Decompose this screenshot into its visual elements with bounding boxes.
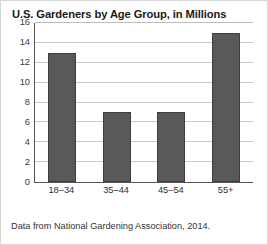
- y-tick-label: 0: [25, 178, 30, 187]
- source-note: Data from National Gardening Association…: [11, 220, 210, 232]
- y-tick-label: 6: [25, 118, 30, 127]
- x-tick-label: 45–54: [144, 184, 199, 196]
- y-tick-label: 8: [25, 98, 30, 107]
- bar-slot: [35, 23, 90, 182]
- x-tick-label: 35–44: [89, 184, 144, 196]
- bar: [157, 112, 185, 182]
- y-tick-label: 10: [20, 78, 30, 87]
- chart-figure: U.S. Gardeners by Age Group, in Millions…: [0, 0, 268, 245]
- bar-slot: [199, 23, 254, 182]
- x-tick-label: 55+: [198, 184, 253, 196]
- bar-slot: [144, 23, 199, 182]
- y-axis-tick-labels: 0246810121416: [8, 23, 30, 183]
- plot-wrapper: 0246810121416 18–3435–4445–5455+: [8, 23, 260, 195]
- bar: [212, 33, 240, 182]
- y-tick-label: 12: [20, 58, 30, 67]
- y-tick-label: 2: [25, 158, 30, 167]
- bar-series: [35, 23, 253, 182]
- y-tick-label: 16: [20, 18, 30, 27]
- y-tick-label: 14: [20, 38, 30, 47]
- bar: [48, 53, 76, 182]
- y-tick-label: 4: [25, 138, 30, 147]
- x-axis-tick-labels: 18–3435–4445–5455+: [34, 184, 253, 196]
- chart-title: U.S. Gardeners by Age Group, in Millions: [12, 7, 260, 21]
- bar: [103, 112, 131, 182]
- plot-area: [34, 23, 253, 183]
- bar-slot: [90, 23, 145, 182]
- x-tick-label: 18–34: [34, 184, 89, 196]
